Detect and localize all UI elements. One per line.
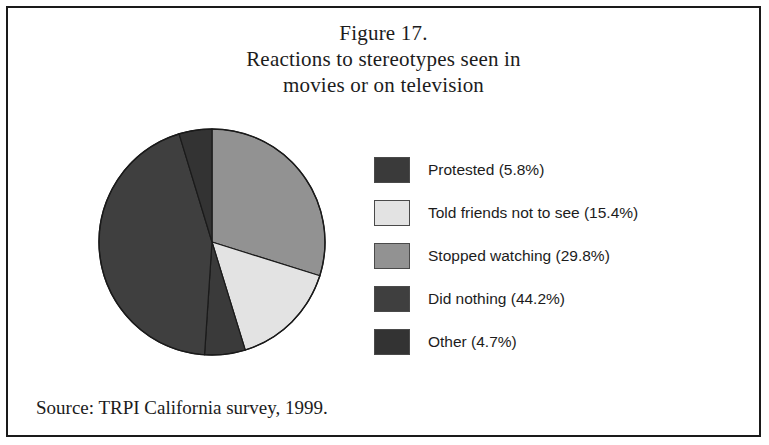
legend-label: Other (4.7%): [428, 333, 517, 351]
legend-label: Protested (5.8%): [428, 161, 544, 179]
pie-chart: [94, 116, 334, 368]
legend-swatch: [374, 243, 410, 269]
pie-chart-svg: [94, 116, 334, 368]
legend-item: Other (4.7%): [374, 320, 754, 363]
legend-item: Stopped watching (29.8%): [374, 234, 754, 277]
figure-title-line-2: Reactions to stereotypes seen in: [8, 46, 759, 72]
source-note: Source: TRPI California survey, 1999.: [36, 397, 328, 419]
legend-label: Stopped watching (29.8%): [428, 247, 610, 265]
legend-swatch: [374, 157, 410, 183]
figure-title-line-1: Figure 17.: [8, 20, 759, 46]
legend-item: Told friends not to see (15.4%): [374, 191, 754, 234]
figure-frame: Figure 17. Reactions to stereotypes seen…: [6, 6, 761, 437]
chart-legend: Protested (5.8%)Told friends not to see …: [374, 148, 754, 363]
legend-swatch: [374, 200, 410, 226]
legend-label: Told friends not to see (15.4%): [428, 204, 638, 222]
legend-swatch: [374, 329, 410, 355]
legend-item: Protested (5.8%): [374, 148, 754, 191]
figure-title: Figure 17. Reactions to stereotypes seen…: [8, 20, 759, 98]
figure-title-line-3: movies or on television: [8, 72, 759, 98]
legend-label: Did nothing (44.2%): [428, 290, 565, 308]
legend-item: Did nothing (44.2%): [374, 277, 754, 320]
legend-swatch: [374, 286, 410, 312]
